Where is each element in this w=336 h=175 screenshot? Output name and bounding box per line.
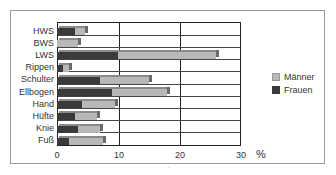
bar-segment-maenner [69, 138, 103, 145]
bar-segment-frauen [57, 52, 118, 59]
bar-hws [57, 28, 85, 35]
bar-segment-maenner [57, 40, 78, 47]
bar-segment-maenner [100, 77, 149, 84]
category-label: HWS [33, 26, 54, 36]
bar-segment-frauen [57, 138, 69, 145]
gridline-h [58, 84, 240, 85]
category-label: Knie [36, 123, 54, 133]
gridline-h [58, 35, 240, 36]
legend-item-frauen: Frauen [272, 83, 315, 96]
bar-schulter [57, 77, 149, 84]
bar-end-cap [78, 38, 81, 45]
bar-segment-frauen [57, 113, 75, 120]
legend-swatch-maenner [272, 73, 280, 81]
bar-ellbogen [57, 89, 167, 96]
x-axis-unit: % [256, 148, 266, 160]
category-label: Ellbogen [19, 87, 54, 97]
category-label: Hand [32, 99, 54, 109]
bar-segment-maenner [112, 89, 167, 96]
bar-bws [57, 40, 78, 47]
bar-rippen [57, 65, 69, 72]
bar-end-cap [167, 87, 170, 94]
category-label: Schulter [21, 74, 54, 84]
category-label: LWS [35, 50, 54, 60]
bar-hüfte [57, 113, 97, 120]
bar-fuß [57, 138, 103, 145]
bar-end-cap [216, 50, 219, 57]
bar-end-cap [97, 111, 100, 118]
legend-label: Frauen [284, 85, 313, 95]
category-label: Hüfte [32, 111, 54, 121]
bar-end-cap [103, 136, 106, 143]
bar-knie [57, 126, 100, 133]
bar-segment-frauen [57, 28, 75, 35]
bar-segment-maenner [118, 52, 216, 59]
bar-end-cap [115, 99, 118, 106]
bar-end-cap [85, 26, 88, 33]
x-tick-label: 20 [175, 150, 185, 160]
footer-mark: ¨ [168, 166, 170, 173]
legend-label: Männer [284, 72, 315, 82]
x-tick-label: 30 [236, 150, 246, 160]
bar-end-cap [69, 63, 72, 70]
category-label: BWS [33, 38, 54, 48]
x-tick-label: 0 [54, 150, 59, 160]
bar-segment-frauen [57, 126, 78, 133]
category-label: Rippen [25, 62, 54, 72]
bar-segment-frauen [57, 101, 82, 108]
gridline-h [58, 71, 240, 72]
bar-segment-frauen [57, 89, 112, 96]
bar-lws [57, 52, 216, 59]
gridline-h [58, 47, 240, 48]
bar-segment-frauen [57, 77, 100, 84]
bar-end-cap [149, 75, 152, 82]
gridline-h [58, 96, 240, 97]
legend-item-maenner: Männer [272, 70, 315, 83]
bar-segment-maenner [75, 113, 96, 120]
category-label: Fuß [38, 135, 54, 145]
legend-swatch-frauen [272, 86, 280, 94]
bar-segment-maenner [82, 101, 116, 108]
bar-segment-maenner [75, 28, 84, 35]
bar-end-cap [100, 124, 103, 131]
bar-segment-maenner [78, 126, 99, 133]
bar-hand [57, 101, 115, 108]
legend: Männer Frauen [272, 70, 315, 96]
x-tick-label: 10 [114, 150, 124, 160]
